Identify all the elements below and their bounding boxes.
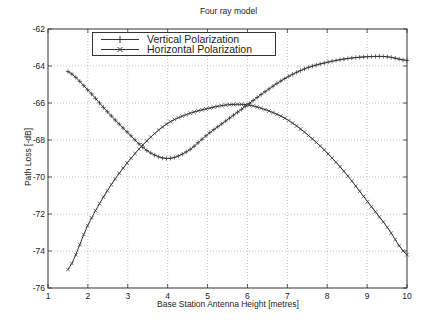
legend: Vertical Polarization Horizontal Polariz… (92, 32, 276, 56)
y-tick-label: -76 (33, 283, 46, 293)
legend-label: Horizontal Polarization (147, 43, 252, 55)
y-tick-label: -68 (33, 135, 46, 145)
y-tick-label: -64 (33, 61, 46, 71)
x-axis-label: Base Station Antenna Height [metres] (48, 299, 408, 309)
plus-marker-icon (101, 35, 141, 44)
series-line-vertical (68, 56, 407, 158)
x-marker-icon (101, 45, 141, 54)
legend-item-horizontal: Horizontal Polarization (93, 44, 275, 55)
y-axis-label: Path Loss [-dB] (23, 107, 33, 207)
chart-title: Four ray model (12, 6, 433, 16)
y-tick-label: -70 (33, 172, 46, 182)
y-tick-label: -62 (33, 24, 46, 34)
y-tick-label: -72 (33, 209, 46, 219)
y-tick-label: -74 (33, 246, 46, 256)
axes-box (48, 29, 407, 288)
y-tick-label: -66 (33, 98, 46, 108)
